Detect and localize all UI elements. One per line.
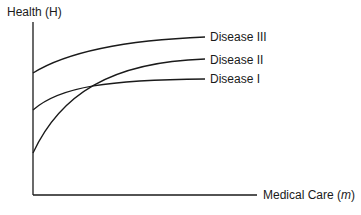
curve-disease-iii	[33, 37, 205, 73]
x-axis-label-var: m	[341, 188, 351, 202]
y-axis-label: Health (H)	[7, 6, 62, 18]
legend-disease-iii: Disease III	[210, 31, 267, 43]
curve-disease-ii	[33, 59, 205, 153]
chart-canvas	[0, 0, 361, 215]
x-axis-label-suffix: )	[351, 188, 355, 202]
legend-disease-i: Disease I	[210, 73, 260, 85]
legend-disease-ii: Disease II	[210, 54, 263, 66]
x-axis-label-prefix: Medical Care (	[263, 188, 341, 202]
x-axis-label: Medical Care (m)	[263, 189, 355, 201]
curve-disease-i	[33, 79, 205, 110]
